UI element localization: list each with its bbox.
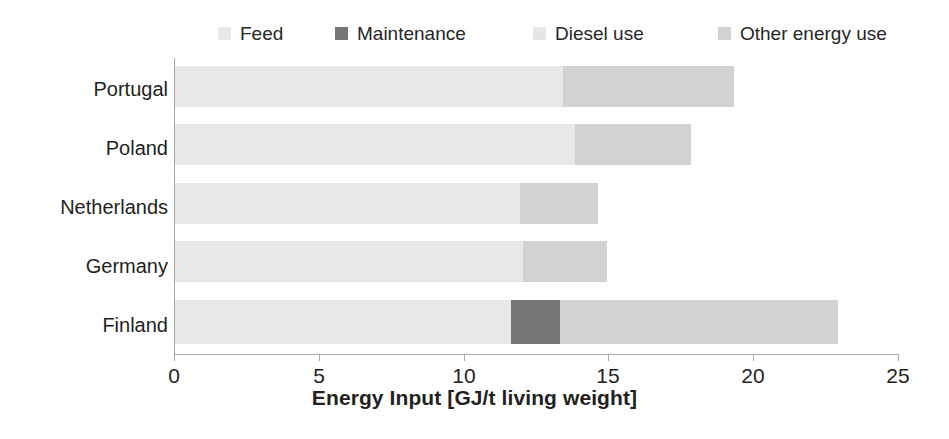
x-tick-mark-20 <box>753 354 754 361</box>
chart-legend: Feed Maintenance Diesel use Other energy… <box>178 22 938 44</box>
x-tick-mark-10 <box>464 354 465 361</box>
legend-label-maintenance: Maintenance <box>357 24 466 43</box>
legend-swatch-diesel-use <box>533 27 546 40</box>
bar-row-germany <box>175 241 607 282</box>
x-axis-line <box>174 354 898 355</box>
legend-item-diesel-use: Diesel use <box>533 22 644 44</box>
bar-row-portugal <box>175 66 734 107</box>
legend-label-diesel-use: Diesel use <box>555 24 644 43</box>
x-tick-mark-5 <box>319 354 320 361</box>
legend-item-other-energy-use: Other energy use <box>718 22 887 44</box>
y-axis-label-netherlands: Netherlands <box>60 196 168 218</box>
energy-input-stacked-bar-chart: Feed Maintenance Diesel use Other energy… <box>0 0 949 439</box>
x-tick-mark-15 <box>608 354 609 361</box>
x-tick-label-0: 0 <box>168 364 180 388</box>
bar-row-poland <box>175 124 691 165</box>
bar-segment-germany-feed <box>175 241 523 282</box>
y-axis-label-germany: Germany <box>86 255 168 277</box>
legend-item-maintenance: Maintenance <box>335 22 466 44</box>
bar-segment-poland-other-energy-use <box>575 124 691 165</box>
bar-segment-germany-other-energy-use <box>523 241 607 282</box>
x-tick-label-25: 25 <box>886 364 909 388</box>
x-tick-label-15: 15 <box>596 364 619 388</box>
legend-label-feed: Feed <box>240 24 283 43</box>
legend-swatch-other-energy-use <box>718 27 731 40</box>
plot-area: 0 5 10 15 20 25 <box>174 58 898 354</box>
x-tick-mark-0 <box>174 354 175 361</box>
x-axis-title: Energy Input [GJ/t living weight] <box>0 386 949 410</box>
x-tick-label-5: 5 <box>313 364 325 388</box>
y-axis-label-poland: Poland <box>106 137 168 159</box>
legend-swatch-maintenance <box>335 27 348 40</box>
y-axis-label-portugal: Portugal <box>94 78 169 100</box>
legend-label-other-energy-use: Other energy use <box>740 24 887 43</box>
x-tick-label-20: 20 <box>741 364 764 388</box>
bar-segment-netherlands-feed <box>175 183 520 224</box>
bar-segment-netherlands-other-energy-use <box>520 183 598 224</box>
y-axis-label-finland: Finland <box>102 314 168 336</box>
y-axis-category-labels: Portugal Poland Netherlands Germany Finl… <box>10 58 168 354</box>
bar-row-finland <box>175 300 838 344</box>
x-tick-mark-25 <box>898 354 899 361</box>
bar-segment-finland-maintenance <box>511 300 560 344</box>
bar-row-netherlands <box>175 183 598 224</box>
bar-segment-finland-other-energy-use <box>560 300 838 344</box>
bar-segment-finland-feed <box>175 300 511 344</box>
x-tick-label-10: 10 <box>452 364 475 388</box>
bar-segment-portugal-feed <box>175 66 563 107</box>
legend-item-feed: Feed <box>218 22 283 44</box>
legend-swatch-feed <box>218 27 231 40</box>
bar-segment-portugal-other-energy-use <box>563 66 734 107</box>
bar-segment-poland-feed <box>175 124 575 165</box>
